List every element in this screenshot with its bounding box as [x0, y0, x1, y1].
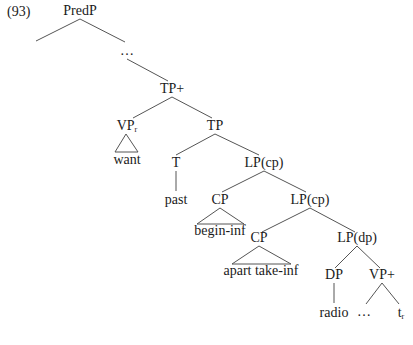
node-cp-1: CP — [211, 193, 228, 207]
node-tp-plus: TP+ — [160, 82, 184, 96]
branch-vpplus-trace — [382, 283, 399, 304]
leaf-trace-subscript: r — [402, 312, 405, 321]
node-dp: DP — [325, 268, 343, 282]
leaf-trace: tr — [398, 306, 405, 321]
branch-tpplus-tp — [172, 97, 212, 118]
leaf-begin-inf: begin-inf — [194, 224, 245, 238]
syntax-tree-branches — [0, 0, 413, 345]
leaf-apart-take-inf: apart take-inf — [223, 264, 298, 278]
branch-tpplus-vpr — [133, 97, 172, 118]
branch-tp-t — [176, 134, 215, 155]
branch-predp-right — [80, 19, 125, 42]
node-lp-cp-1: LP(cp) — [245, 156, 284, 170]
node-tp: TP — [207, 119, 223, 133]
branch-lpdp-dp — [335, 246, 357, 268]
leaf-want: want — [113, 153, 140, 167]
node-vp-r: VPr — [117, 119, 138, 134]
branch-lpcp2-cp — [262, 208, 310, 232]
leaf-past: past — [165, 193, 188, 207]
triangle-cp-apart — [232, 246, 291, 264]
branch-lpcp1-cp — [222, 171, 264, 192]
branch-lpcp2-lpdp — [310, 208, 355, 232]
node-cp-2: CP — [250, 231, 267, 245]
node-predp: PredP — [63, 4, 96, 18]
leaf-ellipsis-bottom: … — [357, 305, 371, 319]
branch-vpplus-ellipsis — [366, 283, 382, 304]
node-lp-dp: LP(dp) — [337, 231, 377, 245]
triangle-cp-begin — [197, 208, 244, 224]
node-vp-r-subscript: r — [135, 125, 138, 134]
branch-ellipsis-tpplus — [127, 59, 168, 81]
leaf-radio: radio — [320, 306, 349, 320]
node-vp-plus: VP+ — [369, 268, 395, 282]
node-vp-r-base: VP — [117, 118, 135, 133]
branch-tp-lpcp — [215, 134, 259, 155]
node-lp-cp-2: LP(cp) — [291, 193, 330, 207]
branch-lpcp1-lpcp2 — [264, 171, 306, 192]
node-ellipsis-top: … — [120, 44, 134, 58]
branch-predp-left — [36, 19, 80, 41]
node-t: T — [172, 156, 181, 170]
branch-lpdp-vpplus — [357, 246, 380, 268]
example-number: (93) — [7, 5, 30, 19]
triangle-vpr — [115, 134, 138, 152]
